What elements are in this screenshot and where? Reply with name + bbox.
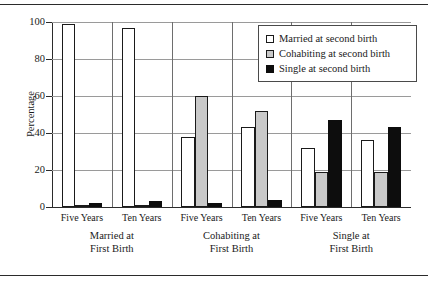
legend-item-married: Married at second birth [266,31,409,46]
y-axis-tick-label: 80 [35,54,46,65]
group-label: Married atFirst Birth [52,229,172,255]
bar-single [149,201,163,207]
legend-swatch-single-icon [266,65,274,73]
y-axis-tick-label: 40 [35,128,46,139]
group-label: Single atFirst Birth [291,229,411,255]
legend-swatch-cohabiting-icon [266,50,274,58]
bar-married [62,24,76,207]
chart-figure: 020406080100 Percentage Five YearsTen Ye… [0,0,428,287]
bottom-rule [0,275,428,276]
x-axis-tick-label: Ten Years [232,212,292,223]
bar-cohab [255,111,269,207]
legend-item-cohabiting: Cohabiting at second birth [266,46,409,61]
y-axis-tick-label: 20 [35,165,46,176]
x-axis-tick-label: Ten Years [351,212,411,223]
bar-married [122,28,136,207]
bar-cohab [315,172,329,207]
bar-single [208,203,222,207]
bar-cohab [75,205,89,207]
group-label-line2: First Birth [291,242,411,255]
bar-cohab [135,205,149,207]
bar-single [89,203,103,207]
y-axis-tick [46,207,52,208]
bar-single [328,120,342,207]
legend-label-single: Single at second birth [279,61,370,76]
bar-married [241,127,255,207]
group-label-line1: Single at [291,229,411,242]
y-axis-tick-label: 100 [29,17,45,28]
y-axis-tick-label: 0 [40,202,45,213]
x-axis-line [52,207,411,208]
y-axis-label: Percentage [25,91,36,137]
slot-separator [172,22,173,207]
group-label-line1: Cohabiting at [172,229,292,242]
legend-label-cohabiting: Cohabiting at second birth [279,46,390,61]
top-rule [0,4,428,5]
legend-item-single: Single at second birth [266,61,409,76]
x-axis-tick-label: Ten Years [112,212,172,223]
slot-separator [232,22,233,207]
bar-married [301,148,315,207]
bar-married [181,137,195,207]
x-axis-tick-label: Five Years [52,212,112,223]
bar-cohab [195,96,209,207]
x-axis-tick-label: Five Years [291,212,351,223]
slot-separator [112,22,113,207]
legend: Married at second birth Cohabiting at se… [258,25,417,82]
y-axis-tick-label: 60 [35,91,46,102]
bar-cohab [374,172,388,207]
group-label-line1: Married at [52,229,172,242]
group-label-line2: First Birth [172,242,292,255]
x-axis-tick-label: Five Years [172,212,232,223]
bar-married [361,140,375,207]
group-label: Cohabiting atFirst Birth [172,229,292,255]
group-label-line2: First Birth [52,242,172,255]
bar-single [268,200,282,207]
bar-single [388,127,402,207]
legend-swatch-married-icon [266,35,274,43]
legend-label-married: Married at second birth [279,31,377,46]
